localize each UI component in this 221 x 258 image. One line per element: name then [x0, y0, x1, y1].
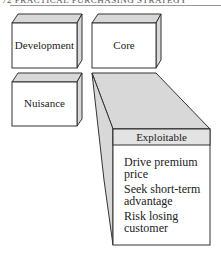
development-box-top: [12, 14, 82, 23]
core-box-label: Core: [113, 39, 135, 51]
nuisance-box: Nuisance: [12, 73, 82, 126]
exploitable-box: Exploitable Drive premium price Seek sho…: [92, 73, 210, 245]
development-box-label: Development: [15, 39, 74, 51]
core-box-side: [156, 14, 161, 68]
exploitable-box-label: Exploitable: [136, 131, 187, 143]
exploitable-item-1-line-2: price: [124, 167, 148, 181]
nuisance-box-side: [77, 73, 82, 126]
portfolio-diagram: Development Core Nuisance Exploitable Dr…: [0, 0, 221, 258]
nuisance-box-top: [12, 73, 82, 82]
development-box: Development: [12, 14, 82, 68]
exploitable-item-3-line-2: customer: [124, 221, 168, 235]
development-box-side: [77, 14, 82, 68]
core-box-top: [92, 14, 161, 23]
nuisance-box-label: Nuisance: [24, 97, 65, 109]
core-box: Core: [92, 14, 161, 68]
exploitable-item-2-line-2: advantage: [124, 194, 173, 208]
